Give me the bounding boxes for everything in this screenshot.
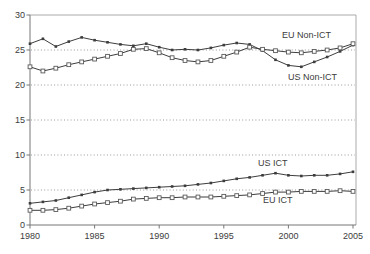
- series-marker-eu-non-ict: [261, 47, 265, 51]
- series-marker-eu-ict: [299, 190, 303, 194]
- series-marker-us-non-ict: [326, 56, 329, 59]
- series-marker-eu-ict: [170, 196, 174, 200]
- series-marker-us-non-ict: [29, 42, 32, 45]
- series-marker-us-ict: [106, 189, 109, 192]
- series-label-us-non-ict: US Non-ICT: [288, 72, 338, 82]
- series-marker-us-ict: [29, 202, 32, 205]
- series-marker-eu-ict: [144, 197, 148, 201]
- series-marker-us-non-ict: [313, 61, 316, 64]
- x-tick-label-2005: 2005: [343, 231, 363, 241]
- series-marker-us-ict: [67, 196, 70, 199]
- series-marker-us-ict: [55, 199, 58, 202]
- series-marker-eu-ict: [209, 195, 213, 199]
- series-marker-eu-ict: [80, 204, 84, 208]
- series-marker-us-ict: [171, 185, 174, 188]
- series-marker-eu-non-ict: [209, 59, 213, 63]
- series-marker-eu-non-ict: [325, 48, 329, 52]
- x-tick-label-2000: 2000: [278, 231, 298, 241]
- series-line-us-ict: [30, 172, 353, 204]
- series-marker-eu-non-ict: [274, 49, 278, 53]
- series-marker-eu-ict: [54, 208, 58, 212]
- series-line-eu-ict: [30, 191, 353, 211]
- series-marker-eu-non-ict: [248, 45, 252, 49]
- series-marker-us-ict: [145, 187, 148, 190]
- series-marker-us-non-ict: [223, 44, 226, 47]
- investment-line-chart: 051015202530198019851990199520002005EU N…: [0, 0, 370, 254]
- series-label-eu-ict: EU ICT: [263, 195, 293, 205]
- series-marker-eu-non-ict: [54, 66, 58, 70]
- series-marker-us-ict: [223, 180, 226, 183]
- series-marker-us-non-ict: [184, 48, 187, 51]
- series-marker-us-non-ict: [132, 45, 135, 48]
- y-tick-label-25: 25: [15, 45, 25, 55]
- series-marker-eu-ict: [351, 190, 355, 194]
- series-marker-us-ict: [93, 191, 96, 194]
- series-marker-us-ict: [158, 186, 161, 189]
- series-marker-us-ict: [300, 175, 303, 178]
- series-marker-us-non-ict: [145, 42, 148, 45]
- series-marker-us-ict: [119, 188, 122, 191]
- series-marker-eu-ict: [287, 190, 291, 194]
- series-marker-us-ict: [261, 174, 264, 177]
- y-tick-label-20: 20: [15, 80, 25, 90]
- series-marker-eu-non-ict: [183, 59, 187, 63]
- series-marker-eu-non-ict: [222, 54, 226, 58]
- y-tick-label-10: 10: [15, 150, 25, 160]
- series-marker-us-non-ict: [42, 38, 45, 41]
- series-marker-eu-non-ict: [106, 54, 110, 58]
- y-tick-label-5: 5: [20, 185, 25, 195]
- series-marker-eu-non-ict: [67, 63, 71, 67]
- series-marker-eu-non-ict: [28, 65, 32, 69]
- series-marker-eu-ict: [106, 201, 110, 205]
- series-marker-eu-non-ict: [131, 47, 135, 51]
- series-marker-eu-non-ict: [119, 52, 123, 56]
- series-marker-eu-non-ict: [312, 50, 316, 54]
- series-marker-eu-non-ict: [93, 57, 97, 61]
- series-label-us-ict: US ICT: [258, 158, 288, 168]
- series-marker-eu-ict: [222, 194, 226, 198]
- series-marker-eu-ict: [28, 208, 32, 212]
- series-marker-eu-non-ict: [196, 60, 200, 64]
- y-tick-label-0: 0: [20, 220, 25, 230]
- series-marker-us-ict: [80, 194, 83, 197]
- series-marker-us-non-ict: [93, 39, 96, 42]
- series-label-eu-non-ict: EU Non-ICT: [282, 30, 332, 40]
- series-marker-us-ict: [313, 174, 316, 177]
- series-marker-eu-non-ict: [235, 50, 239, 54]
- series-marker-us-non-ict: [339, 50, 342, 53]
- series-marker-eu-ict: [274, 190, 278, 194]
- series-marker-eu-ict: [235, 194, 239, 198]
- series-marker-us-ict: [248, 176, 251, 179]
- x-tick-label-1990: 1990: [149, 231, 169, 241]
- x-tick-label-1995: 1995: [214, 231, 234, 241]
- series-marker-eu-ict: [312, 190, 316, 194]
- series-marker-us-non-ict: [55, 45, 58, 48]
- series-marker-us-ict: [274, 172, 277, 175]
- series-marker-eu-non-ict: [338, 46, 342, 50]
- series-marker-us-non-ict: [274, 59, 277, 62]
- series-marker-us-non-ict: [106, 41, 109, 44]
- series-marker-us-ict: [210, 182, 213, 185]
- series-marker-eu-ict: [119, 199, 123, 203]
- series-marker-us-ict: [287, 174, 290, 177]
- series-marker-us-ict: [352, 171, 355, 174]
- series-marker-eu-non-ict: [351, 42, 355, 46]
- series-marker-eu-ict: [338, 189, 342, 193]
- series-marker-eu-non-ict: [170, 56, 174, 60]
- series-marker-us-ict: [42, 201, 45, 204]
- series-marker-us-ict: [235, 178, 238, 181]
- series-marker-us-non-ict: [210, 47, 213, 50]
- series-marker-us-non-ict: [197, 49, 200, 52]
- series-marker-us-non-ict: [67, 40, 70, 43]
- series-marker-eu-ict: [157, 196, 161, 200]
- series-marker-us-non-ict: [158, 46, 161, 49]
- series-marker-us-ict: [184, 185, 187, 188]
- series-marker-us-ict: [326, 174, 329, 177]
- series-marker-us-non-ict: [80, 36, 83, 39]
- series-marker-eu-non-ict: [287, 50, 291, 54]
- series-marker-us-non-ict: [287, 64, 290, 67]
- y-tick-label-30: 30: [15, 10, 25, 20]
- series-marker-eu-ict: [93, 202, 97, 206]
- series-marker-eu-non-ict: [157, 51, 161, 55]
- series-line-eu-non-ict: [30, 44, 353, 71]
